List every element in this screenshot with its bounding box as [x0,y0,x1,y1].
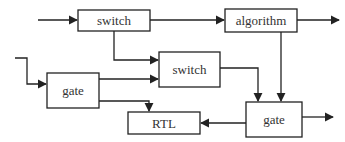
node-switch-top-label: switch [97,13,131,28]
node-gate-right: gate [246,102,302,137]
node-rtl: RTL [128,112,200,134]
edge-gate-left-to-rtl [99,101,149,111]
node-switch-mid: switch [159,52,220,87]
node-rtl-label: RTL [152,116,176,131]
edge-switch-mid-to-gate-right [220,68,258,101]
edge-switch-top-to-switch-mid [114,31,158,60]
node-gate-left-label: gate [62,83,84,98]
block-diagram: switch algorithm switch gate RTL gate [0,0,345,142]
node-algorithm-label: algorithm [236,13,287,28]
node-algorithm: algorithm [225,9,297,32]
node-gate-left: gate [47,73,99,108]
node-gate-right-label: gate [263,112,285,127]
node-switch-mid-label: switch [173,62,207,77]
node-switch-top: switch [78,10,150,31]
edge-input-to-gate-left [15,58,46,84]
